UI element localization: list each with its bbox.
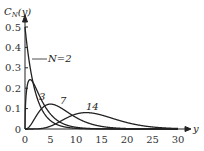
y-tick-label: 0.1 xyxy=(5,103,21,114)
y-tick-label: 0.2 xyxy=(5,83,21,94)
y-tick-label: 0.5 xyxy=(5,22,21,33)
x-tick-label: 15 xyxy=(95,134,108,145)
x-tick-label: 5 xyxy=(47,134,53,145)
x-tick-label: 20 xyxy=(121,134,134,145)
curve-label-n3: 3 xyxy=(39,91,45,102)
curve-label-n2: N=2 xyxy=(47,53,72,64)
x-tick-label: 25 xyxy=(146,134,159,145)
x-tick-label: 0 xyxy=(22,134,28,145)
axes xyxy=(23,15,192,132)
y-tick-label: 0 xyxy=(15,124,21,135)
curve-n2 xyxy=(25,27,178,129)
y-tick-label: 0.4 xyxy=(5,42,21,53)
y-tick-label: 0.3 xyxy=(5,62,21,73)
chart: 05101520253000.10.20.30.40.5 CN(y) y N=2… xyxy=(0,0,204,151)
curve-label-n14: 14 xyxy=(86,101,99,112)
x-tick-label: 30 xyxy=(172,134,185,145)
x-axis-arrow-icon xyxy=(185,127,191,132)
curve-label-n7: 7 xyxy=(60,95,67,106)
y-axis-label: CN(y) xyxy=(4,6,31,19)
x-tick-label: 10 xyxy=(70,134,83,145)
x-axis-label: y xyxy=(192,123,199,134)
curve-n7 xyxy=(25,104,178,129)
